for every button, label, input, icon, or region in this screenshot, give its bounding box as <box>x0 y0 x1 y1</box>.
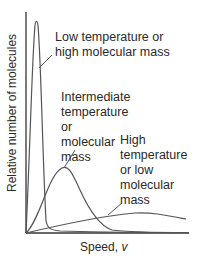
y-axis-label: Relative number of molecules <box>5 52 19 192</box>
annotation-low-temperature: Low temperature or high molecular mass <box>55 30 170 60</box>
annotation-high-temperature: High temperature or low molecular mass <box>120 133 187 208</box>
x-axis-label: Speed, v <box>80 240 127 254</box>
curve-high-temperature <box>26 213 186 233</box>
x-axis-label-text: Speed, v <box>80 240 127 254</box>
speed-variable: v <box>121 240 127 254</box>
leader-line-low <box>39 55 52 68</box>
